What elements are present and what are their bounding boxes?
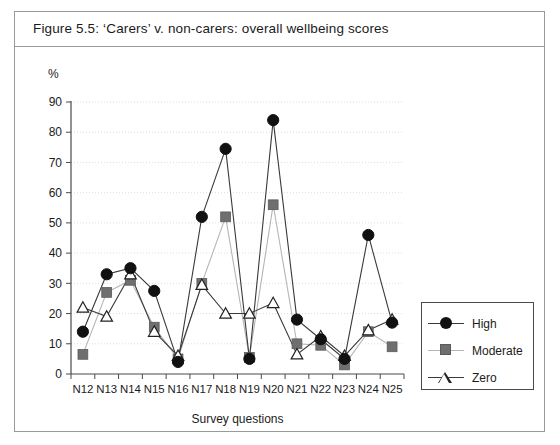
y-axis-tick-label: 10 xyxy=(49,337,63,351)
data-point-marker xyxy=(244,353,255,364)
data-point-marker xyxy=(172,356,183,367)
data-point-marker xyxy=(315,334,326,345)
figure-title: Figure 5.5: ‘Carers’ v. non-carers: over… xyxy=(33,21,389,36)
x-axis-tick-label: N19 xyxy=(239,383,260,395)
data-point-marker xyxy=(149,285,160,296)
data-point-marker xyxy=(291,314,302,325)
y-axis-tick-label: 0 xyxy=(55,367,62,381)
x-axis-tick-label: N13 xyxy=(96,383,117,395)
x-axis-tick-label: N21 xyxy=(287,383,308,395)
data-point-marker xyxy=(101,311,113,321)
legend-label: Moderate xyxy=(472,344,523,358)
legend-marker-filled-circle-icon xyxy=(428,316,464,332)
x-axis-tick-label: N17 xyxy=(191,383,212,395)
legend-item-zero[interactable]: Zero xyxy=(428,369,497,387)
x-axis-tick-label: N12 xyxy=(72,383,93,395)
x-axis-tick-label: N18 xyxy=(215,383,236,395)
data-point-marker xyxy=(221,212,231,222)
y-axis-tick-label: 40 xyxy=(49,246,63,260)
legend-marker-filled-square-icon xyxy=(428,343,464,359)
chart-legend: HighModerateZero xyxy=(421,302,534,390)
legend-item-moderate[interactable]: Moderate xyxy=(428,342,523,360)
x-axis-tick-label: N14 xyxy=(120,383,141,395)
x-axis-tick-label: N23 xyxy=(334,383,355,395)
y-axis-tick-label: 30 xyxy=(49,277,63,291)
x-axis-tick-label: N25 xyxy=(382,383,403,395)
data-point-marker xyxy=(268,200,278,210)
data-point-marker xyxy=(220,143,231,154)
figure-frame: Figure 5.5: ‘Carers’ v. non-carers: over… xyxy=(14,11,545,432)
x-axis-tick-label: N20 xyxy=(263,383,284,395)
data-point-marker xyxy=(387,317,398,328)
data-point-marker xyxy=(363,229,374,240)
data-point-marker xyxy=(339,353,350,364)
data-point-marker xyxy=(125,263,136,274)
data-point-marker xyxy=(78,349,88,359)
figure-title-bar: Figure 5.5: ‘Carers’ v. non-carers: over… xyxy=(15,12,544,47)
y-axis-tick-label: 60 xyxy=(49,186,63,200)
y-axis-tick-label: 50 xyxy=(49,216,63,230)
data-point-marker xyxy=(387,342,397,352)
plot-area: % 0102030405060708090N12N13N14N15N16N17N… xyxy=(15,47,544,432)
y-axis-tick-label: 80 xyxy=(49,125,63,139)
data-point-marker xyxy=(77,302,89,312)
data-point-marker xyxy=(267,297,279,307)
legend-marker-open-triangle-icon xyxy=(428,370,464,386)
legend-item-high[interactable]: High xyxy=(428,315,497,333)
series-high xyxy=(83,120,392,362)
legend-label: Zero xyxy=(472,371,497,385)
data-point-marker xyxy=(292,339,302,349)
x-axis-title: Survey questions xyxy=(191,412,283,426)
data-point-marker xyxy=(196,211,207,222)
series-line xyxy=(83,120,392,362)
data-point-marker xyxy=(77,326,88,337)
y-axis-tick-label: 90 xyxy=(49,95,63,109)
x-axis-tick-label: N22 xyxy=(310,383,331,395)
y-axis-tick-label: 20 xyxy=(49,307,63,321)
legend-label: High xyxy=(472,317,497,331)
y-axis-tick-label: 70 xyxy=(49,156,63,170)
data-point-marker xyxy=(291,349,303,359)
data-point-marker xyxy=(268,115,279,126)
x-axis-tick-label: N15 xyxy=(144,383,165,395)
x-axis-tick-label: N16 xyxy=(168,383,189,395)
x-axis-tick-label: N24 xyxy=(358,383,379,395)
data-point-marker xyxy=(102,288,112,298)
chart-screenshot: Figure 5.5: ‘Carers’ v. non-carers: over… xyxy=(0,0,560,445)
data-point-marker xyxy=(101,269,112,280)
